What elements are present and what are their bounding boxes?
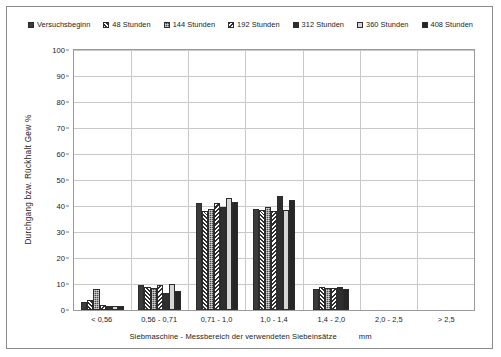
legend-label: 48 Stunden bbox=[112, 21, 150, 28]
bar-series-container bbox=[74, 50, 474, 310]
y-tick-label: 50 bbox=[39, 176, 65, 185]
x-axis-unit: mm bbox=[359, 332, 372, 341]
x-tick-label: 2,0 - 2,5 bbox=[360, 315, 417, 324]
plot-area bbox=[73, 49, 475, 311]
legend-item-3[interactable]: 192 Stunden bbox=[228, 21, 279, 28]
x-tick-label: 0,71 - 1,0 bbox=[188, 315, 245, 324]
chart-legend: Versuchsbeginn48 Stunden144 Stunden192 S… bbox=[7, 21, 494, 28]
bar-group bbox=[188, 50, 245, 310]
x-axis-tick-labels: < 0,560,56 - 0,710,71 - 1,01,0 - 1,41,4 … bbox=[73, 315, 475, 324]
legend-swatch-icon bbox=[28, 22, 34, 28]
bar bbox=[118, 306, 124, 310]
legend-item-4[interactable]: 312 Stunden bbox=[293, 21, 344, 28]
legend-swatch-icon bbox=[103, 22, 109, 28]
bar bbox=[175, 291, 181, 311]
legend-label: 408 Stunden bbox=[431, 21, 473, 28]
x-tick-label: > 2,5 bbox=[418, 315, 475, 324]
x-tick-label: 0,56 - 0,71 bbox=[130, 315, 187, 324]
legend-swatch-icon bbox=[422, 22, 428, 28]
y-tick-mark bbox=[66, 206, 69, 207]
legend-label: 360 Stunden bbox=[366, 21, 408, 28]
y-axis-title: Durchgang bzw. Rückhalt Gew % bbox=[24, 65, 33, 295]
legend-item-5[interactable]: 360 Stunden bbox=[357, 21, 408, 28]
legend-item-0[interactable]: Versuchsbeginn bbox=[28, 21, 90, 28]
y-tick-mark bbox=[66, 180, 69, 181]
y-tick-label: 70 bbox=[39, 124, 65, 133]
y-tick-label: 80 bbox=[39, 98, 65, 107]
legend-label: 192 Stunden bbox=[237, 21, 279, 28]
y-tick-label: 30 bbox=[39, 228, 65, 237]
y-tick-mark bbox=[66, 102, 69, 103]
y-tick-mark bbox=[66, 128, 69, 129]
x-axis-title-text: Siebmaschine - Messbereich der verwendet… bbox=[129, 332, 336, 341]
y-tick-label: 90 bbox=[39, 72, 65, 81]
bar-group bbox=[303, 50, 360, 310]
y-tick-mark bbox=[66, 50, 69, 51]
legend-swatch-icon bbox=[164, 22, 170, 28]
y-axis-tick-labels: 0102030405060708090100 bbox=[43, 49, 69, 311]
bar-group bbox=[74, 50, 131, 310]
legend-swatch-icon bbox=[293, 22, 299, 28]
y-tick-label: 100 bbox=[39, 46, 65, 55]
legend-label: 144 Stunden bbox=[173, 21, 215, 28]
y-tick-label: 0 bbox=[39, 306, 65, 315]
bar-group bbox=[245, 50, 302, 310]
y-tick-mark bbox=[66, 232, 69, 233]
bar bbox=[289, 200, 295, 311]
y-tick-mark bbox=[66, 258, 69, 259]
bar-group bbox=[417, 50, 474, 310]
bar bbox=[232, 202, 238, 310]
legend-item-2[interactable]: 144 Stunden bbox=[164, 21, 215, 28]
y-tick-mark bbox=[66, 310, 69, 311]
x-tick-label: 1,4 - 2,0 bbox=[303, 315, 360, 324]
legend-swatch-icon bbox=[228, 22, 234, 28]
legend-label: 312 Stunden bbox=[302, 21, 344, 28]
legend-item-1[interactable]: 48 Stunden bbox=[103, 21, 150, 28]
bar-group bbox=[360, 50, 417, 310]
legend-label: Versuchsbeginn bbox=[37, 21, 90, 28]
y-tick-label: 40 bbox=[39, 202, 65, 211]
bar-group bbox=[131, 50, 188, 310]
y-tick-mark bbox=[66, 284, 69, 285]
x-axis-title: Siebmaschine - Messbereich der verwendet… bbox=[7, 332, 494, 341]
chart-figure: Versuchsbeginn48 Stunden144 Stunden192 S… bbox=[6, 6, 493, 349]
y-tick-label: 10 bbox=[39, 280, 65, 289]
x-tick-label: 1,0 - 1,4 bbox=[245, 315, 302, 324]
y-tick-label: 20 bbox=[39, 254, 65, 263]
x-tick-label: < 0,56 bbox=[73, 315, 130, 324]
legend-item-6[interactable]: 408 Stunden bbox=[422, 21, 473, 28]
y-tick-mark bbox=[66, 154, 69, 155]
bar bbox=[343, 289, 349, 310]
legend-swatch-icon bbox=[357, 22, 363, 28]
y-tick-label: 60 bbox=[39, 150, 65, 159]
y-tick-mark bbox=[66, 76, 69, 77]
